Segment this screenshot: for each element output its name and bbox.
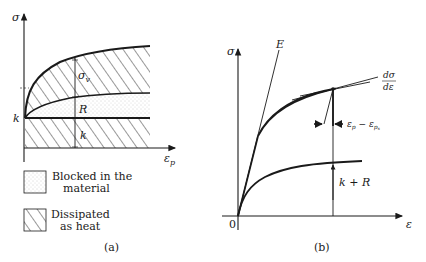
legend-blocked-line2: material [63, 182, 110, 195]
tangent-label-den: dε [383, 82, 394, 92]
legend-swatch-dotted [24, 171, 46, 193]
caption-b: (b) [314, 241, 330, 254]
plastic-offset-label: εp − εps [347, 119, 380, 131]
panel-b: σ ε 0 E dσ dε εp − εps k + R (b) [222, 38, 412, 254]
elastic-label-e: E [275, 38, 284, 51]
unloading-line [324, 89, 333, 124]
tangent-label: dσ dε [382, 70, 396, 92]
x-axis-label-b: ε [406, 218, 412, 231]
panel-a: σ εp k σv R k Blocked in the material Di… [12, 11, 175, 254]
tangent-line-2 [300, 82, 370, 96]
legend-item-blocked: Blocked in the material [24, 170, 132, 195]
region-dissipated-lower [25, 118, 150, 148]
k-dim-label: k [80, 129, 87, 142]
tangent-label-num: dσ [383, 70, 396, 80]
figure: σ εp k σv R k Blocked in the material Di… [0, 0, 426, 262]
origin-label: 0 [229, 218, 236, 231]
r-label: R [78, 103, 87, 116]
caption-a: (a) [104, 241, 119, 254]
y-axis-label-b: σ [227, 45, 235, 58]
tangent-line [292, 77, 378, 100]
k-axis-label: k [13, 112, 20, 125]
legend-swatch-hatched [24, 209, 46, 231]
k-plus-r-label: k + R [339, 176, 370, 189]
y-axis-label-a: σ [12, 11, 20, 24]
x-axis-label-a: εp [164, 152, 175, 167]
curve-stress-strain [258, 89, 335, 136]
legend-dissipated-line2: as heat [60, 220, 101, 233]
legend-item-dissipated: Dissipated as heat [24, 208, 110, 233]
